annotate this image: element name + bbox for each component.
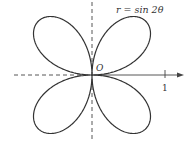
origin-label: O [96, 63, 104, 73]
x-axis-arrow-icon [177, 73, 184, 78]
tick-label-1: 1 [162, 83, 168, 93]
equation-label: r = sin 2θ [116, 4, 164, 15]
polar-rose-diagram: r = sin 2θ O 1 [0, 0, 191, 144]
